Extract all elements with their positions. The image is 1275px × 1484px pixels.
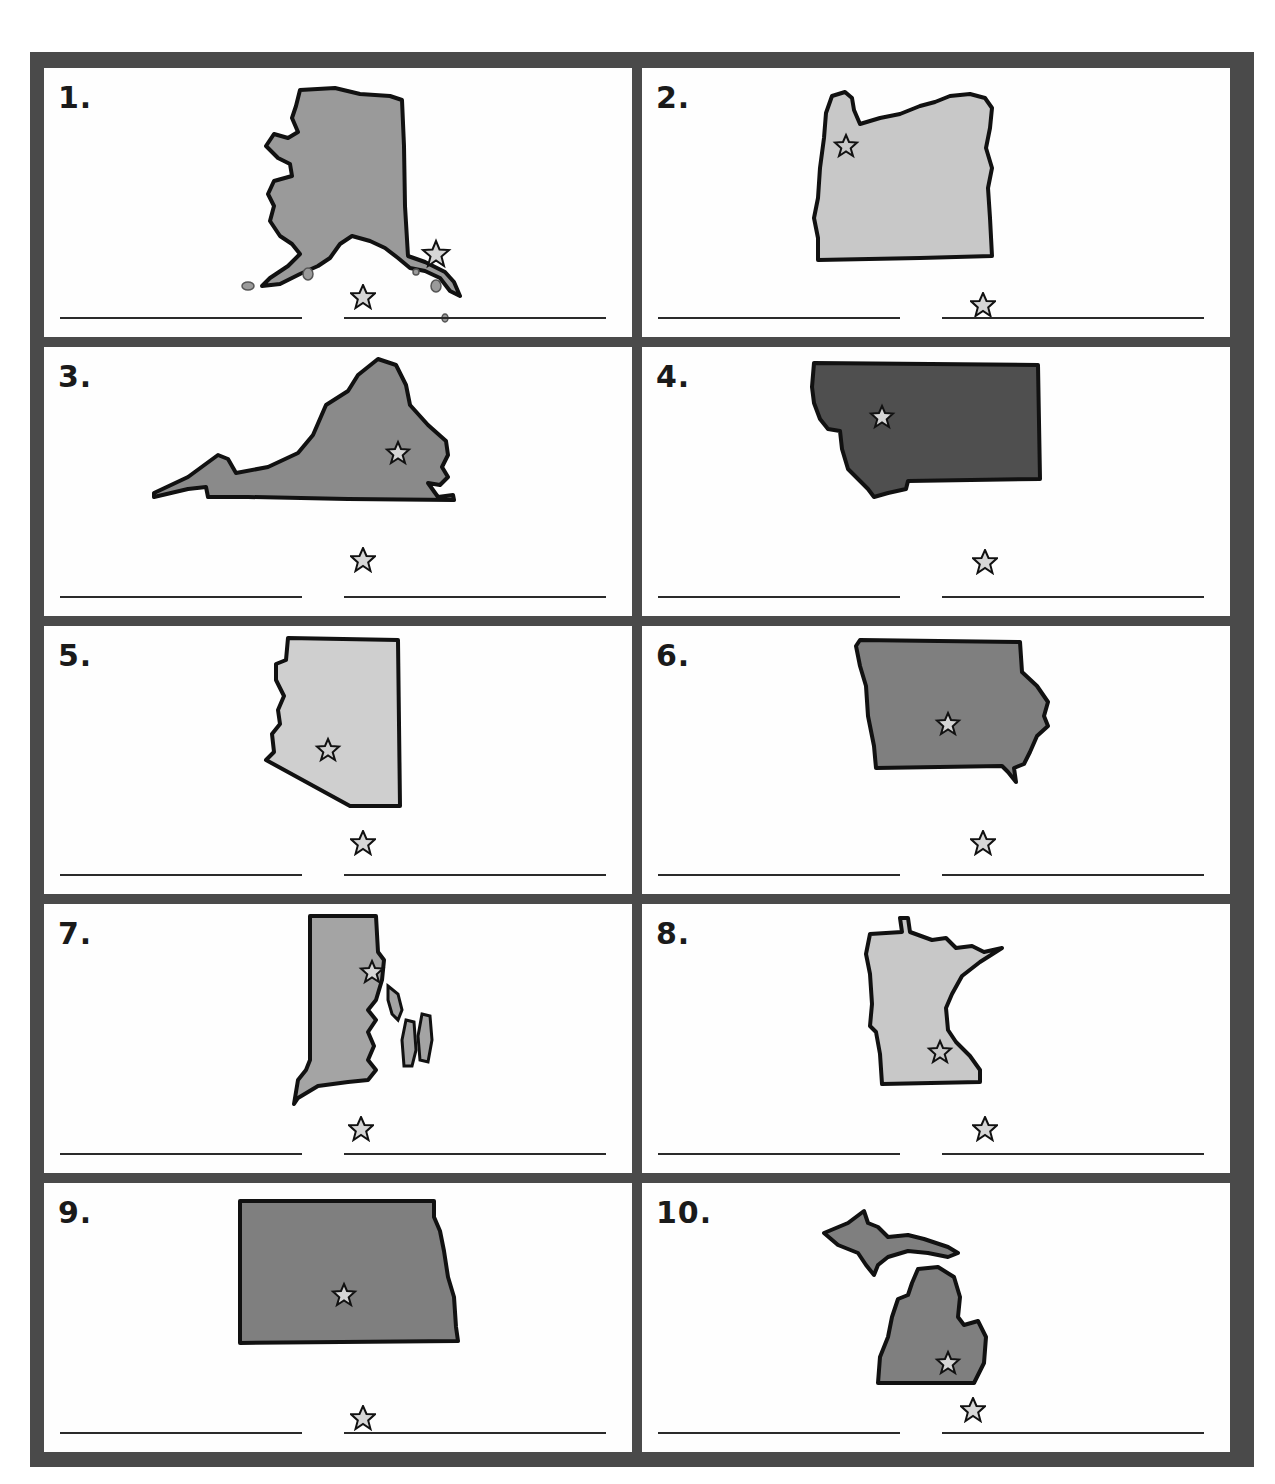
capital-answer-line[interactable] <box>942 317 1204 319</box>
iowa-map-icon <box>852 636 1062 791</box>
capital-answer-input[interactable] <box>344 567 610 595</box>
capital-answer-line[interactable] <box>942 1153 1204 1155</box>
state-answer-input[interactable] <box>658 1124 904 1152</box>
capital-answer-input[interactable] <box>942 288 1208 316</box>
state-answer-input[interactable] <box>60 567 306 595</box>
state-answer-line[interactable] <box>60 317 302 319</box>
panel-10: 10. <box>642 1183 1230 1452</box>
worksheet-frame: 1. 2. <box>30 52 1254 1467</box>
panel-number: 10. <box>656 1195 712 1230</box>
state-answer-line[interactable] <box>658 596 900 598</box>
panel-number: 4. <box>656 359 690 394</box>
panel-3: 3. <box>44 347 632 616</box>
minnesota-map-icon <box>862 914 1022 1094</box>
alaska-map-icon <box>240 86 480 301</box>
montana-map-icon <box>808 359 1048 499</box>
state-answer-line[interactable] <box>658 874 900 876</box>
rhode-island-map-icon <box>288 910 448 1115</box>
capital-answer-input[interactable] <box>942 845 1208 873</box>
panel-number: 9. <box>58 1195 92 1230</box>
panel-number: 6. <box>656 638 690 673</box>
state-answer-input[interactable] <box>60 1403 306 1431</box>
capital-answer-input[interactable] <box>942 1124 1208 1152</box>
capital-answer-line[interactable] <box>942 874 1204 876</box>
panel-9: 9. <box>44 1183 632 1452</box>
panel-number: 8. <box>656 916 690 951</box>
panel-grid: 1. 2. <box>44 68 1240 1452</box>
capital-answer-input[interactable] <box>344 845 610 873</box>
state-answer-line[interactable] <box>658 1153 900 1155</box>
panel-5: 5. <box>44 626 632 895</box>
michigan-map-icon <box>808 1187 1008 1387</box>
capital-answer-line[interactable] <box>344 1153 606 1155</box>
state-answer-input[interactable] <box>60 845 306 873</box>
state-answer-line[interactable] <box>658 317 900 319</box>
panel-number: 2. <box>656 80 690 115</box>
panel-4: 4. <box>642 347 1230 616</box>
panel-8: 8. <box>642 904 1230 1173</box>
state-answer-input[interactable] <box>60 288 306 316</box>
capital-answer-line[interactable] <box>942 1432 1204 1434</box>
virginia-map-icon <box>148 355 468 505</box>
capital-answer-input[interactable] <box>344 1403 610 1431</box>
capital-answer-input[interactable] <box>942 567 1208 595</box>
state-answer-input[interactable] <box>658 845 904 873</box>
panel-7: 7. <box>44 904 632 1173</box>
state-answer-line[interactable] <box>60 1432 302 1434</box>
state-answer-line[interactable] <box>60 874 302 876</box>
state-answer-input[interactable] <box>60 1124 306 1152</box>
state-answer-line[interactable] <box>658 1432 900 1434</box>
state-answer-input[interactable] <box>658 567 904 595</box>
state-answer-input[interactable] <box>658 1403 904 1431</box>
capital-answer-line[interactable] <box>344 874 606 876</box>
north-dakota-map-icon <box>234 1197 464 1347</box>
capital-answer-line[interactable] <box>344 596 606 598</box>
panel-6: 6. <box>642 626 1230 895</box>
arizona-map-icon <box>258 634 418 814</box>
capital-answer-line[interactable] <box>344 317 606 319</box>
capital-answer-line[interactable] <box>344 1432 606 1434</box>
panel-number: 7. <box>58 916 92 951</box>
panel-1: 1. <box>44 68 632 337</box>
panel-number: 5. <box>58 638 92 673</box>
oregon-map-icon <box>810 88 1025 268</box>
state-answer-input[interactable] <box>658 288 904 316</box>
capital-answer-input[interactable] <box>344 1124 610 1152</box>
panel-2: 2. <box>642 68 1230 337</box>
state-answer-line[interactable] <box>60 1153 302 1155</box>
capital-answer-line[interactable] <box>942 596 1204 598</box>
state-answer-line[interactable] <box>60 596 302 598</box>
capital-answer-input[interactable] <box>942 1403 1208 1431</box>
panel-number: 3. <box>58 359 92 394</box>
panel-number: 1. <box>58 80 92 115</box>
capital-answer-input[interactable] <box>344 288 610 316</box>
